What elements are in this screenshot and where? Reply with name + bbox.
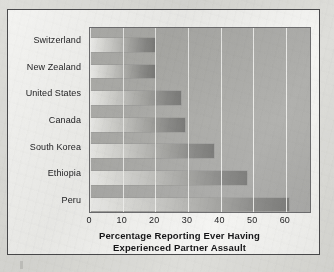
bar-chart: SwitzerlandNew ZealandUnited StatesCanad… <box>8 10 319 254</box>
y-label-united-states: United States <box>26 88 81 98</box>
x-axis-title: Percentage Reporting Ever Having Experie… <box>48 230 311 254</box>
bar-row <box>90 118 310 132</box>
y-label-south-korea: South Korea <box>30 142 81 152</box>
figure-frame: SwitzerlandNew ZealandUnited StatesCanad… <box>7 9 320 255</box>
x-axis-title-line-2: Experienced Partner Assault <box>48 242 311 254</box>
x-tick-10: 10 <box>116 215 126 225</box>
x-tick-60: 60 <box>280 215 290 225</box>
x-axis-title-line-1: Percentage Reporting Ever Having <box>48 230 311 242</box>
bar-row <box>90 198 310 212</box>
bar-row <box>90 38 310 52</box>
y-label-canada: Canada <box>49 115 81 125</box>
y-label-switzerland: Switzerland <box>33 35 81 45</box>
x-axis-tick-labels: 0102030405060 <box>89 215 311 231</box>
bar-row <box>90 91 310 105</box>
bar-row <box>90 171 310 185</box>
y-label-ethiopia: Ethiopia <box>48 168 81 178</box>
bar-new-zealand <box>90 65 155 79</box>
x-tick-30: 30 <box>182 215 192 225</box>
bar-peru <box>90 198 289 212</box>
x-tick-40: 40 <box>214 215 224 225</box>
bar-switzerland <box>90 38 155 52</box>
plot-area <box>89 27 311 213</box>
bar-south-korea <box>90 144 214 158</box>
bar-series <box>90 28 310 212</box>
bar-united-states <box>90 91 181 105</box>
x-tick-0: 0 <box>86 215 91 225</box>
chart-screenshot: SwitzerlandNew ZealandUnited StatesCanad… <box>0 0 334 272</box>
bar-row <box>90 144 310 158</box>
y-axis-category-labels: SwitzerlandNew ZealandUnited StatesCanad… <box>8 27 85 213</box>
x-tick-50: 50 <box>247 215 257 225</box>
y-label-new-zealand: New Zealand <box>27 62 81 72</box>
scan-artifact-mark <box>20 261 23 269</box>
bar-canada <box>90 118 185 132</box>
bar-ethiopia <box>90 171 247 185</box>
x-tick-20: 20 <box>149 215 159 225</box>
y-label-peru: Peru <box>62 195 81 205</box>
bar-row <box>90 65 310 79</box>
